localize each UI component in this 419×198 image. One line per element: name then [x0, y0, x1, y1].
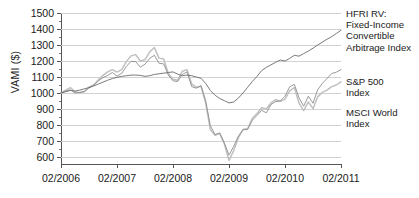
legend-label-sp500: S&P 500 Index: [346, 76, 419, 98]
x-tick-label: 02/2010: [266, 173, 304, 184]
plot-area: 600700800900100011001200130014001500 02/…: [61, 13, 341, 165]
legend-entry-msci: MSCI World Index: [346, 107, 419, 129]
y-tick-label: 600: [36, 152, 54, 163]
y-tick-label: 1400: [31, 24, 54, 35]
y-tick-label: 1100: [31, 72, 54, 83]
y-tick-label: 1300: [31, 40, 54, 51]
y-tick-label: 900: [36, 104, 54, 115]
x-tick: [341, 164, 342, 168]
y-axis-title: VAMI ($): [9, 26, 21, 118]
y-tick-label: 1500: [31, 8, 54, 19]
series-lines: [61, 13, 341, 165]
chart-figure: VAMI ($) 6007008009001000110012001300140…: [0, 0, 419, 198]
legend-label-msci: MSCI World Index: [346, 107, 419, 129]
y-tick-label: 1200: [31, 56, 54, 67]
legend-entry-sp500: S&P 500 Index: [346, 76, 419, 98]
y-tick-label: 1000: [31, 88, 54, 99]
x-tick-label: 02/2009: [210, 173, 248, 184]
legend-label-hfri: HFRI RV: Fixed-Income Convertible Arbitr…: [346, 8, 419, 53]
legend: HFRI RV: Fixed-Income Convertible Arbitr…: [346, 8, 419, 139]
x-tick-label: 02/2011: [322, 173, 359, 184]
y-tick-label: 800: [36, 120, 54, 131]
x-tick-label: 02/2007: [98, 173, 136, 184]
series-line: [61, 30, 341, 103]
series-line: [61, 48, 341, 161]
x-tick-label: 02/2008: [154, 173, 192, 184]
y-tick-label: 700: [36, 136, 54, 147]
x-tick-label: 02/2006: [42, 173, 80, 184]
series-line: [61, 55, 341, 155]
legend-entry-hfri: HFRI RV: Fixed-Income Convertible Arbitr…: [346, 8, 419, 53]
